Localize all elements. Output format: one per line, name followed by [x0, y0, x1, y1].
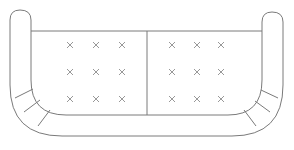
- tuft-x-icon: [194, 96, 200, 102]
- tuft-x-icon: [119, 42, 125, 48]
- tuft-x-icon: [218, 42, 224, 48]
- tuft-x-icon: [67, 69, 73, 75]
- tuft-x-icon: [119, 69, 125, 75]
- tuft-x-icon: [169, 42, 175, 48]
- tuft-marks: [67, 42, 224, 102]
- tuft-x-icon: [169, 69, 175, 75]
- sofa-diagram: [0, 0, 294, 150]
- tuft-x-icon: [194, 42, 200, 48]
- tuft-x-icon: [67, 96, 73, 102]
- tuft-x-icon: [218, 96, 224, 102]
- right-corner-seam-1: [261, 90, 278, 98]
- tuft-x-icon: [169, 96, 175, 102]
- tuft-x-icon: [218, 69, 224, 75]
- tuft-x-icon: [194, 69, 200, 75]
- tuft-x-icon: [93, 96, 99, 102]
- left-corner-seam-2: [24, 100, 40, 112]
- right-corner-seam-2: [255, 101, 270, 112]
- tuft-x-icon: [67, 42, 73, 48]
- tuft-x-icon: [119, 96, 125, 102]
- left-corner-seam-1: [15, 89, 33, 98]
- right-corner-seam-3: [244, 110, 256, 126]
- tuft-x-icon: [93, 42, 99, 48]
- left-corner-seam-3: [38, 110, 50, 126]
- sofa-drawing: [0, 0, 294, 150]
- tuft-x-icon: [93, 69, 99, 75]
